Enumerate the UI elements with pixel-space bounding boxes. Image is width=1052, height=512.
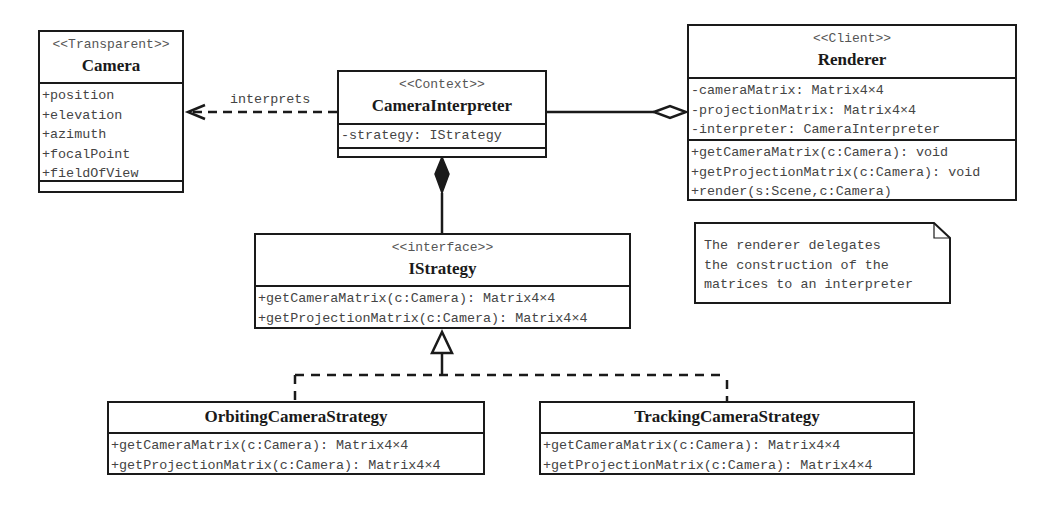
attribute: +fieldOfView	[42, 164, 182, 184]
attributes-section: -cameraMatrix: Matrix4×4 -projectionMatr…	[689, 79, 1015, 141]
method: +render(s:Scene,c:Camera)	[691, 182, 1015, 202]
interface-istrategy[interactable]: <<interface>> IStrategy +getCameraMatrix…	[254, 233, 631, 329]
attribute: +focalPoint	[42, 145, 182, 165]
attribute: -projectionMatrix: Matrix4×4	[691, 101, 1015, 121]
class-name: OrbitingCameraStrategy	[109, 405, 483, 429]
method: +getProjectionMatrix(c:Camera): void	[691, 163, 1015, 183]
class-camera[interactable]: <<Transparent>> Camera +position +elevat…	[38, 30, 184, 193]
dependency-interprets-arrow	[188, 105, 337, 119]
methods-section: +getCameraMatrix(c:Camera): Matrix4×4 +g…	[256, 287, 629, 330]
class-orbiting-camera-strategy[interactable]: OrbitingCameraStrategy +getCameraMatrix(…	[107, 401, 485, 475]
stereotype: <<interface>>	[256, 239, 629, 257]
attributes-section: -strategy: IStrategy	[339, 125, 545, 149]
method: +getCameraMatrix(c:Camera): Matrix4×4	[543, 436, 913, 456]
note-line: The renderer delegates	[704, 236, 913, 256]
method: +getCameraMatrix(c:Camera): void	[691, 143, 1015, 163]
attribute: +azimuth	[42, 125, 182, 145]
class-tracking-camera-strategy[interactable]: TrackingCameraStrategy +getCameraMatrix(…	[539, 401, 915, 475]
class-name: TrackingCameraStrategy	[541, 405, 913, 429]
aggregation-renderer-interpreter	[546, 106, 686, 118]
methods-section: +getCameraMatrix(c:Camera): void +getPro…	[689, 141, 1015, 204]
attribute: -cameraMatrix: Matrix4×4	[691, 81, 1015, 101]
stereotype: <<Transparent>>	[40, 36, 182, 54]
method: +getCameraMatrix(c:Camera): Matrix4×4	[111, 436, 483, 456]
class-header: <<Transparent>> Camera	[40, 32, 182, 84]
attribute: +position	[42, 86, 182, 106]
class-header: <<Client>> Renderer	[689, 26, 1015, 79]
attribute: -interpreter: CameraInterpreter	[691, 120, 1015, 140]
note-text: The renderer delegates the construction …	[704, 236, 913, 295]
methods-section-empty	[339, 149, 545, 156]
note-line: matrices to an interpreter	[704, 275, 913, 295]
class-header: OrbitingCameraStrategy	[109, 403, 483, 434]
class-camera-interpreter[interactable]: <<Context>> CameraInterpreter -strategy:…	[337, 70, 547, 158]
realization-strategies-istrategy	[295, 332, 727, 401]
class-name: Camera	[40, 54, 182, 78]
note-renderer-delegates: The renderer delegates the construction …	[694, 222, 952, 304]
interprets-label: interprets	[228, 92, 312, 107]
methods-section: +getCameraMatrix(c:Camera): Matrix4×4 +g…	[109, 434, 483, 477]
method: +getProjectionMatrix(c:Camera): Matrix4×…	[543, 456, 913, 476]
note-line: the construction of the	[704, 256, 913, 276]
method: +getProjectionMatrix(c:Camera): Matrix4×…	[111, 456, 483, 476]
class-name: IStrategy	[256, 257, 629, 281]
class-header: <<interface>> IStrategy	[256, 235, 629, 287]
class-header: <<Context>> CameraInterpreter	[339, 72, 545, 125]
composition-interpreter-istrategy	[435, 157, 449, 233]
class-name: CameraInterpreter	[339, 94, 545, 118]
attributes-section: +position +elevation +azimuth +focalPoin…	[40, 84, 182, 182]
methods-section: +getCameraMatrix(c:Camera): Matrix4×4 +g…	[541, 434, 913, 477]
class-name: Renderer	[689, 48, 1015, 72]
method: +getProjectionMatrix(c:Camera): Matrix4×…	[258, 309, 629, 329]
stereotype: <<Context>>	[339, 76, 545, 94]
class-header: TrackingCameraStrategy	[541, 403, 913, 434]
stereotype: <<Client>>	[689, 30, 1015, 48]
method: +getCameraMatrix(c:Camera): Matrix4×4	[258, 289, 629, 309]
attribute: -strategy: IStrategy	[341, 126, 545, 146]
class-renderer[interactable]: <<Client>> Renderer -cameraMatrix: Matri…	[687, 24, 1017, 201]
attribute: +elevation	[42, 106, 182, 126]
